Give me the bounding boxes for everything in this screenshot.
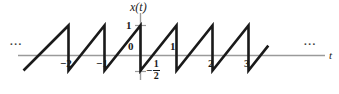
x-label-two: 2 <box>208 58 214 69</box>
x-label-minus-two: −2 <box>60 58 72 69</box>
fraction-minus-sign: − <box>146 65 152 76</box>
x-label-three: 3 <box>244 58 250 69</box>
ellipsis-right: ... <box>304 36 317 47</box>
fraction-numerator: 1 <box>153 59 160 69</box>
x-label-minus-one: −1 <box>96 58 108 69</box>
y-label-minus-one-half: − 1 2 <box>146 59 160 81</box>
fraction-denominator: 2 <box>153 71 160 81</box>
x-label-one: 1 <box>170 41 176 52</box>
t-axis-label: t <box>329 50 332 61</box>
origin-label-zero: 0 <box>128 41 134 52</box>
y-axis-label: x(t) <box>130 1 147 13</box>
y-label-one: 1 <box>126 20 132 31</box>
fraction-one-half: 1 2 <box>153 59 160 81</box>
ellipsis-left: ... <box>10 36 23 47</box>
sawtooth-waveform-figure: x(t) t 1 0 − 1 2 −2 −1 1 2 3 ... ... <box>0 0 339 94</box>
